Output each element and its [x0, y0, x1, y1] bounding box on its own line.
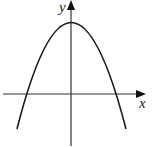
- parabola-diagram: y x: [0, 0, 153, 147]
- x-axis-label: x: [138, 95, 146, 111]
- y-axis-arrow-icon: [67, 0, 75, 10]
- graph: y x: [0, 0, 153, 147]
- y-axis-label: y: [57, 0, 66, 15]
